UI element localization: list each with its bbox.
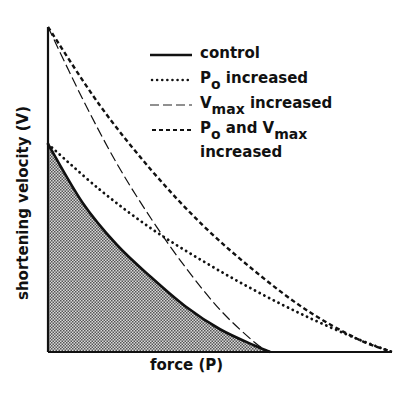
x-axis-label: force (P): [150, 356, 223, 374]
control-shaded-area: [48, 144, 270, 352]
legend-label: control: [200, 44, 260, 62]
solid-line-sample-icon: [150, 53, 192, 57]
y-axis-label: shortening velocity (V): [14, 106, 32, 300]
legend-label: Po and Vmax increased: [200, 119, 307, 161]
legend-label: Vmax increased: [200, 94, 332, 112]
legend-item-vmax-increased: Vmax increased: [150, 94, 332, 119]
short-dash-sample-icon: [150, 128, 192, 132]
legend: control Po increased Vmax increased Po a…: [150, 44, 332, 161]
legend-item-po-increased: Po increased: [150, 69, 332, 94]
legend-item-control: control: [150, 44, 332, 69]
dotted-line-sample-icon: [150, 78, 192, 82]
legend-item-po-vmax-increased: Po and Vmax increased: [150, 119, 332, 161]
long-dash-sample-icon: [150, 103, 192, 107]
legend-label: Po increased: [200, 69, 308, 87]
